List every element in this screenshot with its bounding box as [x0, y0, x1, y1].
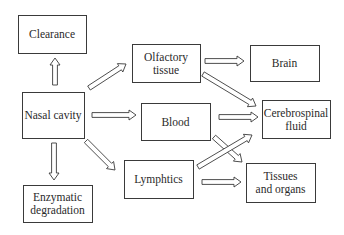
arrow-nasal-to-lymphatics: [84, 139, 115, 170]
node-label: Blood: [161, 116, 189, 128]
arrow-nasal-to-clearance: [50, 58, 60, 85]
nodes-layer: ClearanceOlfactorytissueBrainNasal cavit…: [19, 16, 331, 223]
node-enzymatic: Enzymaticdegradation: [24, 186, 93, 223]
arrow-nasal-to-blood: [92, 110, 136, 120]
arrow-lymphatics-to-tissues: [202, 177, 241, 187]
node-label: Tissues: [263, 170, 298, 182]
node-brain: Brain: [251, 46, 320, 82]
node-nasal: Nasal cavity: [23, 93, 85, 139]
node-label: Olfactory: [144, 51, 188, 64]
node-label: Cerebrospinal: [264, 107, 329, 120]
node-lymphatics: Lymphtics: [125, 161, 194, 199]
diagram-canvas: ClearanceOlfactorytissueBrainNasal cavit…: [0, 0, 344, 235]
arrow-nasal-to-enzymatic: [49, 143, 59, 180]
node-label: tissue: [153, 64, 179, 76]
node-clearance: Clearance: [19, 16, 87, 54]
node-label: Lymphtics: [134, 173, 183, 186]
node-label: Enzymatic: [33, 191, 82, 204]
node-label: degradation: [30, 204, 85, 217]
node-label: Nasal cavity: [24, 109, 81, 122]
flowchart: ClearanceOlfactorytissueBrainNasal cavit…: [0, 0, 344, 235]
node-blood: Blood: [142, 104, 211, 141]
node-label: and organs: [256, 183, 306, 196]
node-csf: Cerebrospinalfluid: [263, 101, 331, 139]
arrow-olfactory-to-brain: [205, 56, 244, 66]
arrow-nasal-to-olfactory: [88, 64, 126, 90]
node-tissues: Tissuesand organs: [247, 164, 316, 203]
arrow-olfactory-to-csf: [202, 72, 256, 107]
node-olfactory: Olfactorytissue: [133, 45, 201, 83]
node-label: fluid: [285, 120, 307, 132]
node-label: Clearance: [29, 28, 75, 40]
arrow-blood-to-csf: [219, 112, 258, 122]
node-label: Brain: [272, 57, 298, 69]
